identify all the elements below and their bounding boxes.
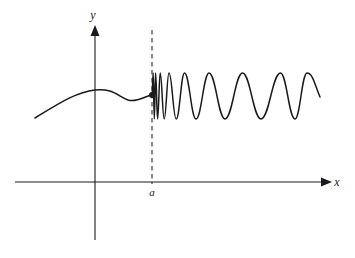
y-axis-arrowhead [91, 25, 100, 36]
x-axis-arrowhead [321, 178, 332, 187]
y-axis-group: y [89, 8, 99, 240]
asymptote-label-a: a [149, 186, 155, 198]
curve-oscillating-branch [152, 73, 320, 119]
x-axis-label: x [333, 175, 340, 189]
curve-left-branch [35, 90, 152, 118]
y-axis-label: y [89, 8, 96, 22]
figure-container: x y a [0, 0, 355, 258]
endpoint-dot [149, 92, 155, 98]
x-axis-group: x [15, 175, 340, 189]
math-plot-svg: x y a [0, 0, 355, 258]
